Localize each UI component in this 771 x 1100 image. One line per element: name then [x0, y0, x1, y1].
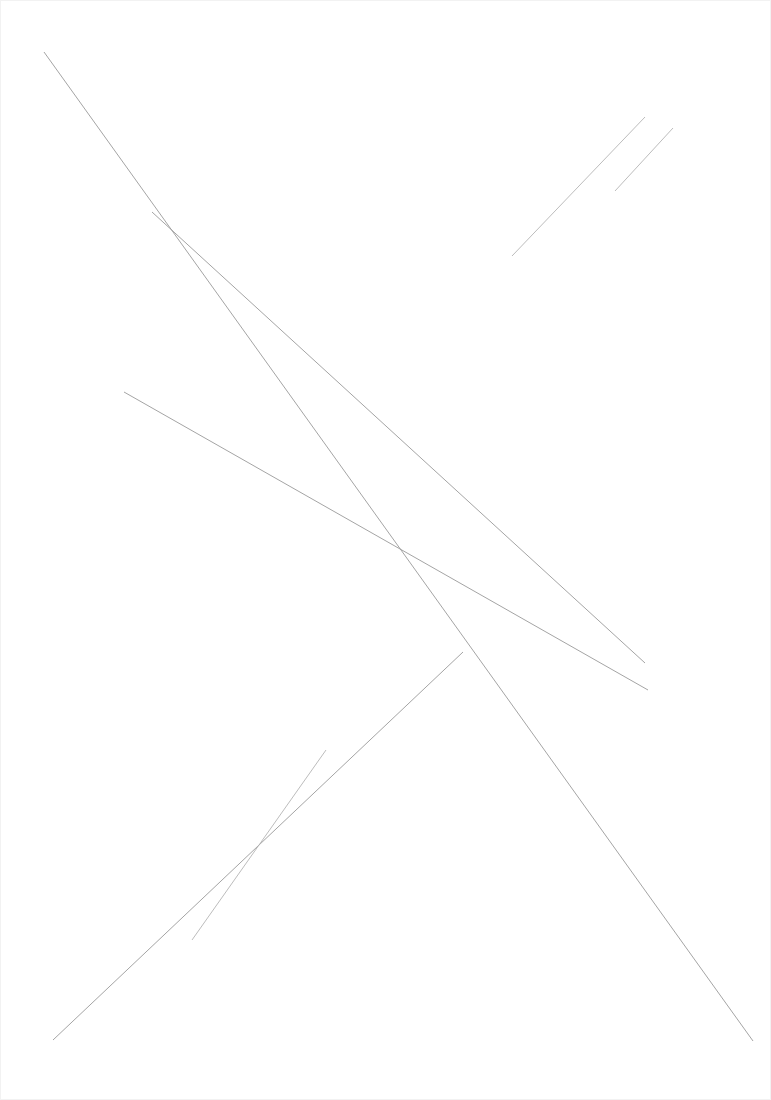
diagonal-stroke-major-diagonal-3 [124, 392, 648, 690]
diagonal-stroke-major-diagonal-1 [44, 52, 753, 1041]
diagonal-line-layer [0, 0, 771, 1100]
diagonal-stroke-major-diagonal-2 [152, 212, 645, 663]
diagonal-stroke-anti-diagonal-upper-right-long [512, 117, 645, 256]
diagonal-stroke-anti-diagonal-lower-left-short [192, 750, 326, 940]
diagonal-stroke-anti-diagonal-upper-right-short [615, 128, 673, 191]
page-canvas [0, 0, 771, 1100]
